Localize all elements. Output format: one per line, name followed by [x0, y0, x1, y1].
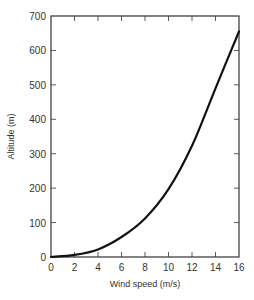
- x-tick-label: 14: [210, 262, 222, 273]
- x-axis-title: Wind speed (m/s): [110, 279, 181, 289]
- y-tick-label: 300: [29, 149, 46, 160]
- y-tick-label: 200: [29, 183, 46, 194]
- y-tick-label: 100: [29, 218, 46, 229]
- y-tick-label: 700: [29, 11, 46, 22]
- x-tick-label: 0: [48, 262, 54, 273]
- tick-labels: 02468101214160100200300400500600700: [29, 11, 245, 273]
- data-curve: [51, 31, 239, 257]
- x-tick-label: 16: [233, 262, 245, 273]
- plot-frame: [51, 16, 239, 257]
- axis-ticks: [51, 16, 239, 257]
- x-tick-label: 6: [119, 262, 125, 273]
- y-tick-label: 500: [29, 80, 46, 91]
- wind-profile-chart: 02468101214160100200300400500600700 Wind…: [0, 0, 254, 300]
- x-tick-label: 12: [186, 262, 198, 273]
- x-tick-label: 8: [142, 262, 148, 273]
- x-tick-label: 10: [163, 262, 175, 273]
- plot-border: [51, 16, 239, 257]
- y-tick-label: 0: [40, 252, 46, 263]
- y-axis-title: Altitude (m): [6, 113, 16, 159]
- y-tick-label: 400: [29, 114, 46, 125]
- x-tick-label: 2: [72, 262, 78, 273]
- x-tick-label: 4: [95, 262, 101, 273]
- y-tick-label: 600: [29, 45, 46, 56]
